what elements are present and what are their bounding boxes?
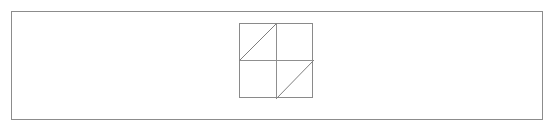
figure-canvas xyxy=(0,0,554,130)
